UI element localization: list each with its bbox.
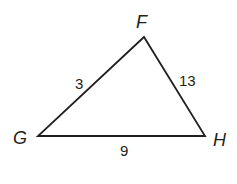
side-label-gh: 9 bbox=[120, 142, 128, 159]
vertex-label-h: H bbox=[213, 130, 227, 150]
triangle-diagram: F G H 3 13 9 bbox=[0, 0, 237, 184]
side-label-fg: 3 bbox=[75, 75, 83, 92]
vertex-label-g: G bbox=[13, 128, 27, 148]
vertex-label-f: F bbox=[136, 12, 148, 32]
side-label-fh: 13 bbox=[179, 72, 196, 89]
